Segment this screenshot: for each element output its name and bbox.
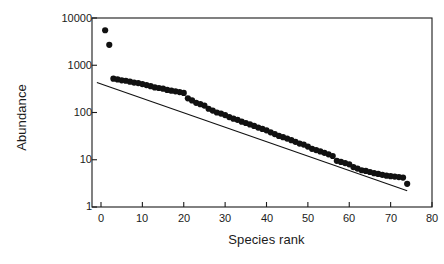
x-axis-tick-marks: [101, 202, 432, 207]
trendline: [97, 83, 407, 191]
plot-frame: [92, 18, 432, 207]
data-points: [102, 27, 410, 187]
rank-abundance-chart: Abundance Species rank 10000 1000 100 10…: [0, 0, 444, 264]
y-axis-tick-marks: [92, 18, 97, 207]
plot-area: [0, 0, 444, 264]
